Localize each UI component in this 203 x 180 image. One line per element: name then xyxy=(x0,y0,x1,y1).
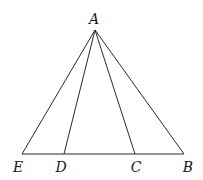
segments xyxy=(22,30,184,154)
segment-AD xyxy=(64,30,95,154)
segment-AB xyxy=(95,30,184,154)
label-A: A xyxy=(87,11,99,27)
segment-AC xyxy=(95,30,135,154)
segment-AE xyxy=(22,30,95,154)
label-C: C xyxy=(131,159,142,175)
label-D: D xyxy=(54,159,66,175)
label-B: B xyxy=(182,159,193,175)
triangle-diagram: A E D C B xyxy=(0,0,203,180)
label-E: E xyxy=(12,159,23,175)
point-labels: A E D C B xyxy=(12,11,193,175)
